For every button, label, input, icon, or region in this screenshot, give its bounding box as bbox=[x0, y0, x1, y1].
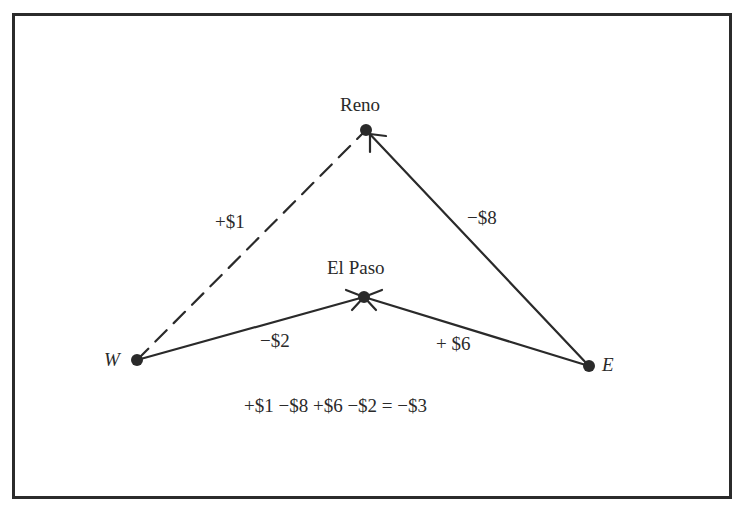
node-elpaso-dot bbox=[358, 291, 370, 303]
edge-label-e-elpaso: + $6 bbox=[436, 334, 470, 353]
node-reno-dot bbox=[360, 124, 372, 136]
equation: +$1 −$8 +$6 −$2 = −$3 bbox=[244, 396, 427, 415]
edge-label-w-elpaso: −$2 bbox=[260, 331, 290, 350]
network-graph bbox=[0, 0, 736, 506]
node-e-dot bbox=[583, 360, 595, 372]
node-w-dot bbox=[131, 354, 143, 366]
node-label-w: W bbox=[104, 350, 120, 369]
edge-label-w-reno: +$1 bbox=[215, 212, 245, 231]
edge-w-elpaso bbox=[137, 297, 364, 360]
node-label-elpaso: El Paso bbox=[327, 258, 385, 277]
node-label-reno: Reno bbox=[340, 95, 380, 114]
node-label-e: E bbox=[602, 355, 614, 374]
edge-w-reno bbox=[137, 130, 366, 360]
edge-e-reno bbox=[366, 130, 589, 366]
edge-label-e-reno: −$8 bbox=[467, 208, 497, 227]
